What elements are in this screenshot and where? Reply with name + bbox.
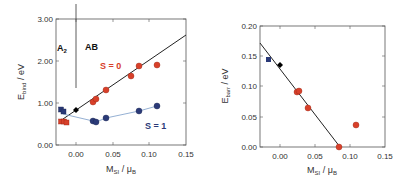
left-xtick-1: 0.05: [105, 150, 121, 159]
left-y-axis-label: Ebind / eV: [16, 64, 27, 100]
left-ytick-1: 1.00: [37, 99, 53, 108]
right-reference-point: [277, 62, 283, 68]
s1-a2-point: [266, 57, 271, 62]
right-ytick-0: 0.00: [241, 143, 257, 152]
right-plot-frame: [260, 26, 385, 147]
left-x-axis-label: MSI / μB: [106, 164, 136, 175]
right-xtick-3: 0.15: [377, 152, 393, 161]
left-ytick-3: 3.00: [37, 15, 53, 24]
label-s0: S = 0: [100, 61, 121, 71]
left-xtick-0: 0.00: [68, 150, 84, 159]
right-y-axis-label: Ebarr / eV: [220, 68, 231, 103]
left-xtick-3: 0.15: [178, 150, 194, 159]
right-xtick-2: 0.10: [342, 152, 358, 161]
right-ytick-4: 0.20: [241, 22, 257, 31]
left-ytick-2: 2.00: [37, 57, 53, 66]
right-xtick-0: 0.00: [272, 152, 288, 161]
left-plot-frame: [56, 19, 186, 145]
right-s0-points: [294, 88, 359, 150]
right-ytick-1: 0.05: [241, 113, 257, 122]
s0-points: [59, 62, 161, 125]
right-fit-line: [260, 43, 340, 147]
label-a2: A2: [57, 43, 68, 54]
left-fit-line: [63, 35, 186, 119]
right-chart: 0.00 0.05 0.10 0.15 0.20 0.00 0.05 0.10 …: [220, 22, 393, 176]
left-chart: 0.00 1.00 2.00 3.00 0.00 0.05 0.10 0.15 …: [16, 4, 194, 175]
right-ytick-2: 0.10: [241, 82, 257, 91]
right-xtick-1: 0.05: [307, 152, 323, 161]
left-xtick-2: 0.10: [141, 150, 157, 159]
label-s1: S = 1: [145, 121, 166, 131]
left-ytick-0: 0.00: [37, 141, 53, 150]
right-ytick-3: 0.15: [241, 52, 257, 61]
label-ab: AB: [85, 42, 98, 52]
right-x-axis-label: MSI / μB: [307, 165, 337, 176]
figure: 0.00 1.00 2.00 3.00 0.00 0.05 0.10 0.15 …: [0, 0, 405, 184]
